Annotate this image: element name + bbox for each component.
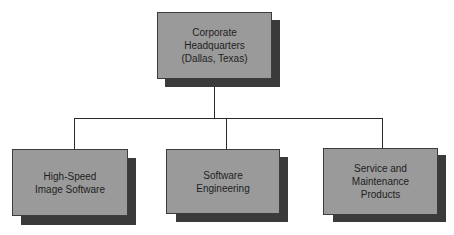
child-node-1-label-line-2: Image Software	[35, 183, 105, 196]
child-node-3-label-line-1: Service and	[354, 162, 407, 175]
child-node-3-label-line-2: Maintenance	[352, 175, 409, 188]
connector-horizontal-bus	[74, 118, 383, 119]
connector-child-1-vertical	[74, 118, 75, 149]
root-node-label-line-3: (Dallas, Texas)	[182, 52, 248, 65]
child-node-3-label-line-3: Products	[361, 188, 400, 201]
child-node-1-label-line-1: High-Speed	[44, 170, 97, 183]
org-chart: Corporate Headquarters (Dallas, Texas) H…	[0, 0, 454, 235]
root-node-label-line-1: Corporate	[192, 26, 236, 39]
child-node-software-engineering: Software Engineering	[166, 149, 280, 214]
root-node-label-line-2: Headquarters	[184, 39, 245, 52]
connector-child-2-vertical	[226, 118, 227, 149]
child-node-2-label-line-1: Software	[203, 169, 242, 182]
connector-child-3-vertical	[382, 118, 383, 148]
root-node-corporate-headquarters: Corporate Headquarters (Dallas, Texas)	[157, 12, 272, 79]
child-node-2-label-line-2: Engineering	[196, 182, 249, 195]
child-node-high-speed-image-software: High-Speed Image Software	[12, 149, 128, 216]
child-node-service-and-maintenance-products: Service and Maintenance Products	[323, 148, 438, 215]
